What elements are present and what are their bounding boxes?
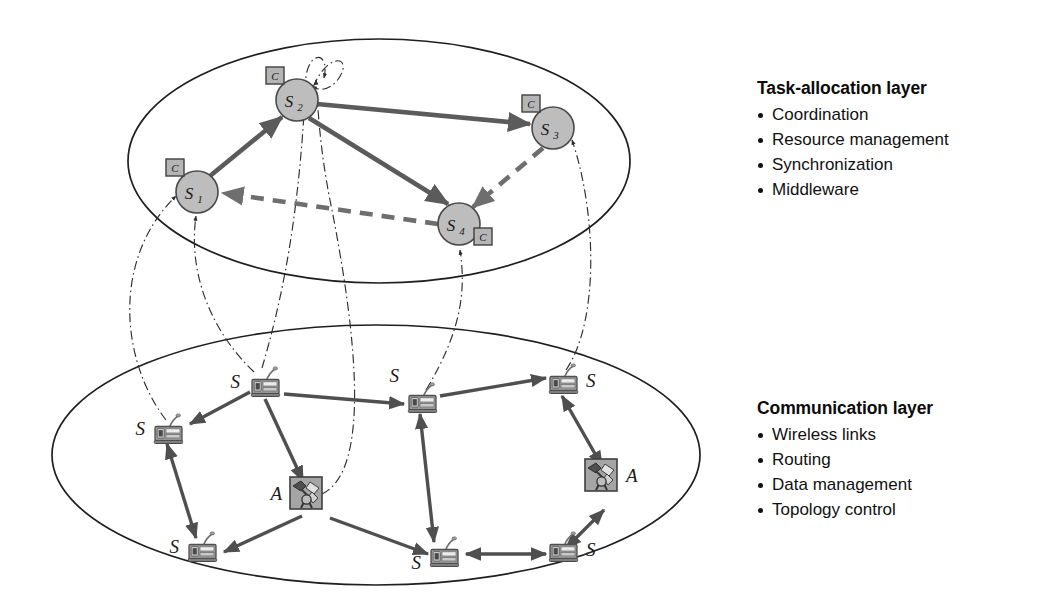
task-bullet-1-label: Resource management: [772, 130, 949, 149]
bullet-dot-icon: [758, 113, 763, 118]
communication-layer-title: Communication layer: [757, 398, 933, 419]
link-S2-S4: [309, 118, 448, 204]
comm-node-a1-label: A: [268, 483, 282, 504]
node-S4-sub: 4: [459, 225, 465, 237]
comm-node-n3-label: S: [390, 365, 400, 386]
node-S3-circle: [532, 107, 574, 149]
node-S3-label: S: [541, 120, 550, 139]
comm-node-a2[interactable]: A: [585, 459, 638, 491]
comm-bullet-0-label: Wireless links: [772, 425, 876, 444]
comm-node-n7-label: S: [586, 539, 596, 560]
bullet-dot-icon: [758, 188, 763, 193]
comm-link-n4-a2: [562, 396, 602, 466]
bullet-dot-icon: [758, 433, 763, 438]
task-bullet-3-label: Middleware: [772, 180, 859, 199]
comm-link-a1-n6: [330, 518, 428, 554]
comm-node-n2[interactable]: S: [136, 414, 183, 444]
diagram-canvas: S 1 C S 2 C S 3 C S 4: [0, 0, 1060, 606]
link-S4-S1: [223, 193, 438, 224]
comm-link-n6-n3: [420, 414, 434, 542]
comm-node-n2-label: S: [136, 418, 146, 439]
cross-link-n3-S4: [426, 250, 462, 390]
node-S4-label: S: [447, 216, 456, 235]
comm-bullet-3-label: Topology control: [772, 500, 896, 519]
comm-link-a2-n7: [566, 510, 604, 548]
comm-node-n5-label: S: [170, 536, 180, 557]
task-bullet-2-label: Synchronization: [772, 155, 893, 174]
node-S1[interactable]: S 1 C: [166, 159, 218, 213]
bullet-dot-icon: [758, 508, 763, 513]
node-S2[interactable]: S 2 C: [266, 67, 318, 121]
comm-node-n7[interactable]: S: [549, 532, 596, 562]
communication-layer-ellipse: [52, 325, 700, 585]
communication-bullet-list: Wireless links Routing Data management T…: [757, 422, 933, 522]
comm-layer-nodes: S S S S S S S: [136, 364, 639, 573]
node-S2-sub: 2: [297, 101, 303, 113]
node-S1-badge-label: C: [171, 162, 179, 174]
node-S2-label: S: [285, 92, 294, 111]
task-layer-links: [210, 61, 543, 224]
bullet-dot-icon: [758, 163, 763, 168]
node-S2-circle: [276, 79, 318, 121]
comm-bullet-3: Topology control: [757, 497, 933, 522]
task-bullet-3: Middleware: [757, 177, 949, 202]
comm-bullet-1-label: Routing: [772, 450, 831, 469]
node-S1-label: S: [185, 184, 194, 203]
comm-link-n1-n2: [190, 392, 250, 424]
comm-bullet-1: Routing: [757, 447, 933, 472]
comm-node-n1[interactable]: S: [231, 367, 280, 397]
task-allocation-layer-title: Task-allocation layer: [757, 78, 949, 99]
comm-node-n6[interactable]: S: [412, 537, 459, 573]
communication-layer-panel: Communication layer Wireless links Routi…: [757, 398, 933, 522]
task-bullet-1: Resource management: [757, 127, 949, 152]
task-bullet-0-label: Coordination: [772, 105, 868, 124]
link-S2-self-loop: [312, 61, 343, 89]
node-S1-sub: 1: [197, 193, 203, 205]
comm-link-n1-a1: [265, 399, 303, 481]
node-S3-sub: 3: [552, 129, 559, 141]
comm-bullet-2-label: Data management: [772, 475, 912, 494]
comm-node-n1-label: S: [231, 371, 241, 392]
link-S3-S4: [473, 148, 543, 207]
node-S3-badge-label: C: [527, 98, 535, 110]
comm-node-n4[interactable]: S: [549, 364, 596, 394]
cross-link-n2-S1: [130, 196, 176, 420]
comm-link-n1-n3: [284, 394, 404, 404]
comm-link-n3-n4: [440, 378, 546, 396]
comm-bullet-2: Data management: [757, 472, 933, 497]
comm-layer-links: [167, 378, 604, 554]
task-bullet-2: Synchronization: [757, 152, 949, 177]
comm-node-n4-label: S: [586, 370, 596, 391]
comm-node-a1[interactable]: A: [268, 477, 322, 509]
comm-node-n6-label: S: [412, 552, 422, 573]
node-S4[interactable]: S 4 C: [438, 203, 492, 245]
cross-link-n4-S3: [566, 140, 591, 370]
task-allocation-bullet-list: Coordination Resource management Synchro…: [757, 102, 949, 202]
comm-link-n2-n5: [167, 444, 196, 538]
comm-link-n5-a1: [224, 516, 302, 552]
node-S1-circle: [176, 171, 218, 213]
node-S2-badge-label: C: [271, 70, 279, 82]
bullet-dot-icon: [758, 138, 763, 143]
bullet-dot-icon: [758, 458, 763, 463]
bullet-dot-icon: [758, 483, 763, 488]
cross-link-n1-S1: [194, 216, 254, 372]
comm-node-a2-label: A: [624, 465, 638, 486]
comm-node-n3[interactable]: S: [390, 365, 437, 413]
link-S2-S3: [317, 104, 530, 124]
task-allocation-layer-panel: Task-allocation layer Coordination Resou…: [757, 78, 949, 202]
link-S1-S2: [210, 117, 282, 176]
node-S4-badge-label: C: [479, 231, 487, 243]
comm-bullet-0: Wireless links: [757, 422, 933, 447]
task-bullet-0: Coordination: [757, 102, 949, 127]
